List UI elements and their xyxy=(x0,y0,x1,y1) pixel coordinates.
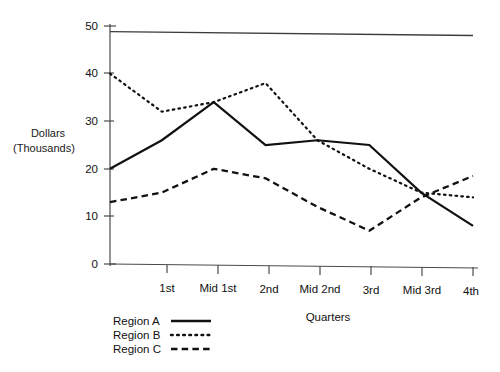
x-tick-label-2nd: 2nd xyxy=(259,283,278,295)
legend-label-region-a: Region A xyxy=(113,315,160,327)
x-axis-title: Quarters xyxy=(306,311,351,323)
y-axis-label-line1: Dollars xyxy=(31,127,66,139)
y-tick-label-0: 0 xyxy=(92,258,98,270)
x-tick-label-4th: 4th xyxy=(463,285,479,297)
series-line-region-c xyxy=(110,169,473,231)
legend-label-region-c: Region C xyxy=(113,343,161,355)
legend-item-region-b: Region B xyxy=(113,329,211,341)
x-axis-line xyxy=(110,264,478,268)
y-tick-label-50: 50 xyxy=(85,20,98,32)
y-tick-label-10: 10 xyxy=(85,210,98,222)
legend: Region A Region B Region C xyxy=(113,315,211,355)
x-tick-label-mid-3rd: Mid 3rd xyxy=(403,284,441,296)
series-line-region-b xyxy=(110,74,473,198)
y-axis-label-line2: (Thousands) xyxy=(13,142,75,154)
line-chart-figure: Dollars (Thousands) 0 10 20 30 40 50 1st… xyxy=(0,0,500,372)
legend-item-region-c: Region C xyxy=(113,343,211,355)
legend-item-region-a: Region A xyxy=(113,315,211,327)
y-tick-label-20: 20 xyxy=(85,163,98,175)
y-tick-label-40: 40 xyxy=(85,67,98,79)
top-reference-line xyxy=(110,32,473,36)
y-tick-label-30: 30 xyxy=(85,115,98,127)
x-tick-label-mid-1st: Mid 1st xyxy=(199,282,237,294)
x-tick-label-mid-2nd: Mid 2nd xyxy=(300,283,341,295)
series-line-region-a xyxy=(110,102,473,226)
legend-label-region-b: Region B xyxy=(113,329,161,341)
x-tick-label-1st: 1st xyxy=(159,282,175,294)
x-tick-label-3rd: 3rd xyxy=(363,284,380,296)
